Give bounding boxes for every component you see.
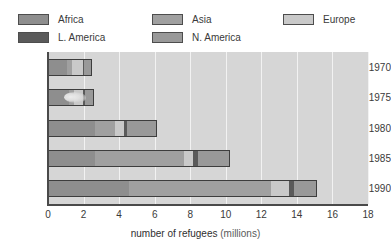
x-axis-title: number of refugees (millions) [0, 228, 391, 239]
x-tick-label-6: 6 [140, 209, 170, 220]
stacked-bar-1990 [48, 180, 317, 197]
bar-segment-africa [49, 60, 67, 75]
bar-segment-n-america [198, 151, 228, 166]
legend-item-africa: Africa [18, 14, 84, 25]
x-axis-line [47, 204, 368, 206]
legend-swatch-africa [18, 14, 49, 25]
legend-swatch-asia [152, 14, 183, 25]
bar-segment-africa [49, 151, 95, 166]
plot-area [48, 52, 368, 204]
bar-segment-n-america [294, 181, 315, 196]
stacked-bar-1975 [48, 89, 94, 106]
bar-segment-n-america [127, 121, 155, 136]
bar-segment-asia [95, 121, 115, 136]
y-tick-label-1985: 1985 [347, 153, 391, 164]
legend-item-asia: Asia [152, 14, 211, 25]
legend-label-europe: Europe [323, 14, 355, 25]
bar-segment-asia [95, 151, 184, 166]
y-tick-label-1990: 1990 [347, 183, 391, 194]
y-tick-label-1975: 1975 [347, 92, 391, 103]
chart-legend: Africa L. America Asia N. America Europe [0, 0, 391, 52]
x-tick-label-18: 18 [353, 209, 383, 220]
bar-segment-europe [115, 121, 124, 136]
x-tick-label-0: 0 [33, 209, 63, 220]
bar-segment-europe [184, 151, 193, 166]
legend-swatch-l-america [18, 32, 49, 43]
legend-item-n-america: N. America [152, 32, 241, 43]
bar-segment-europe [74, 90, 83, 105]
stacked-bar-1970 [48, 59, 92, 76]
gridline-16 [332, 52, 333, 204]
legend-swatch-n-america [152, 32, 183, 43]
legend-label-asia: Asia [192, 14, 211, 25]
stacked-bar-1980 [48, 120, 157, 137]
legend-label-l-america: L. America [58, 32, 105, 43]
y-tick-label-1980: 1980 [347, 123, 391, 134]
y-tick-label-1970: 1970 [347, 62, 391, 73]
legend-item-l-america: L. America [18, 32, 105, 43]
x-tick-label-8: 8 [175, 209, 205, 220]
x-axis-title-unit: (millions) [220, 228, 260, 239]
bar-segment-africa [49, 121, 95, 136]
bar-segment-n-america [85, 90, 94, 105]
legend-item-europe: Europe [283, 14, 355, 25]
stacked-bar-1985 [48, 150, 230, 167]
bar-segment-europe [72, 60, 83, 75]
x-axis-title-main: number of refugees [131, 228, 218, 239]
legend-label-africa: Africa [58, 14, 84, 25]
y-axis-line [47, 52, 49, 205]
legend-swatch-europe [283, 14, 314, 25]
x-tick-label-14: 14 [282, 209, 312, 220]
x-tick-label-4: 4 [104, 209, 134, 220]
x-tick-label-12: 12 [246, 209, 276, 220]
bar-segment-n-america [84, 60, 91, 75]
bar-segment-africa [49, 181, 129, 196]
x-tick-label-16: 16 [317, 209, 347, 220]
legend-label-n-america: N. America [192, 32, 241, 43]
bar-segment-asia [129, 181, 271, 196]
bar-segment-europe [271, 181, 289, 196]
chart-figure: Africa L. America Asia N. America Europe… [0, 0, 391, 250]
bar-segment-africa [49, 90, 69, 105]
x-tick-label-2: 2 [69, 209, 99, 220]
x-tick-label-10: 10 [211, 209, 241, 220]
